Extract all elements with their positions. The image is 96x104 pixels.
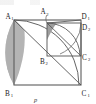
label-b1: B 1: [5, 90, 14, 99]
label-d1-letter: D: [82, 13, 87, 21]
label-a2-subscript: 2: [46, 12, 49, 17]
label-c2: C 2: [82, 54, 91, 63]
label-b2: B 2: [40, 58, 49, 67]
label-c2-subscript: 2: [88, 57, 91, 62]
label-b2-letter: B: [40, 58, 45, 66]
label-c1-subscript: 1: [87, 93, 90, 98]
geometry-figure: A 1 A 2 D 1 D 2 B 2 B 1 C 2 C 1 p: [0, 0, 96, 104]
label-b2-subscript: 2: [46, 61, 49, 66]
label-c1: C 1: [82, 90, 91, 99]
label-d1-subscript: 1: [87, 16, 90, 21]
label-a2: A 2: [41, 8, 50, 17]
shaded-lune-outer: [5, 20, 14, 85]
label-c1-letter: C: [82, 90, 87, 98]
label-a1: A 1: [6, 13, 15, 22]
figure-caption: p: [33, 96, 37, 103]
label-b1-subscript: 1: [11, 93, 14, 98]
label-d2-subscript: 2: [88, 27, 91, 32]
leader-line-a2: [46, 16, 47, 24]
label-d2-letter: D: [82, 24, 87, 32]
label-b1-letter: B: [5, 90, 10, 98]
label-c2-letter: C: [82, 54, 87, 62]
label-d2: D 2: [82, 24, 91, 33]
label-d1: D 1: [82, 13, 91, 22]
